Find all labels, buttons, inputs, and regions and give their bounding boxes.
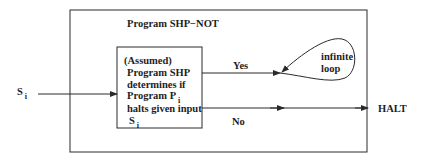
outer-box-title: Program SHP−NOT xyxy=(127,18,219,30)
inner-s-subscript: i xyxy=(137,121,139,130)
input-label-si: Si xyxy=(17,86,27,99)
outer-box-program-shp-not xyxy=(70,10,367,152)
inner-line-program-pi: Program Pi xyxy=(127,90,180,103)
input-s-subscript: i xyxy=(25,92,27,101)
no-label: No xyxy=(232,116,245,128)
yes-label: Yes xyxy=(233,60,248,72)
inner-s-text: S xyxy=(129,115,135,126)
loop-label-infinite: infinite xyxy=(321,51,353,63)
halt-label: HALT xyxy=(378,103,407,115)
inner-line-assumed: (Assumed) xyxy=(124,55,172,67)
loop-label-loop: loop xyxy=(321,63,340,75)
input-s-text: S xyxy=(17,86,23,97)
inner-line-program-shp: Program SHP xyxy=(127,67,190,79)
inner-line-halts: halts given input xyxy=(127,103,202,115)
program-p-text: Program P xyxy=(127,90,176,101)
inner-line-si: Si xyxy=(129,115,139,128)
